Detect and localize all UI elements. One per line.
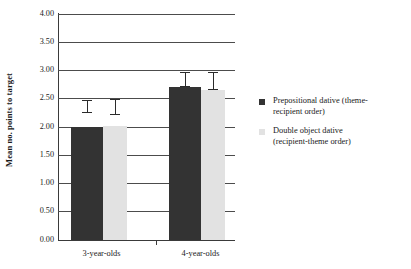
gridline-4-00	[58, 14, 235, 15]
legend-label-double-object-line1: Double object dative	[273, 126, 409, 137]
x-tick-mark-center	[156, 241, 157, 245]
y-tick-label-2-00: 2.00	[20, 123, 54, 131]
legend-label-prepositional-line1: Prepositional dative (theme-	[273, 96, 409, 107]
y-tick-label-3-50: 3.50	[20, 38, 54, 46]
y-axis-title-text: Mean no. points to target	[4, 73, 14, 167]
legend-entry-double-object-dative: Double object dative (recipient-theme or…	[259, 126, 409, 147]
legend-swatch-double-object-dative	[259, 129, 265, 135]
y-tick-label-3-00: 3.00	[20, 66, 54, 74]
error-bar-4-year-olds-double-object	[208, 72, 218, 90]
y-tick-label-2-50: 2.50	[20, 94, 54, 102]
y-tick-label-1-50: 1.50	[20, 151, 54, 159]
legend-label-double-object-line2: (recipient-theme order)	[273, 137, 409, 148]
gridline-3-00	[58, 70, 235, 71]
y-tick-label-0-50: 0.50	[20, 207, 54, 215]
legend-entry-prepositional-dative: Prepositional dative (theme- recipient o…	[259, 96, 409, 117]
legend-label-prepositional-line2: recipient order)	[273, 107, 409, 118]
plot-area	[58, 14, 235, 240]
bar-chart-figure: Mean no. points to target 4.00 3.50 3.00…	[0, 0, 411, 269]
error-bar-4-year-olds-prepositional	[180, 72, 190, 87]
y-tick-label-1-00: 1.00	[20, 179, 54, 187]
legend-swatch-prepositional-dative	[259, 99, 265, 105]
bar-4-year-olds-double-object	[201, 90, 225, 240]
y-tick-label-0-00: 0.00	[20, 236, 54, 244]
gridline-baseline-0-00	[58, 240, 235, 241]
gridline-3-50	[58, 42, 235, 43]
bar-4-year-olds-prepositional	[169, 87, 201, 240]
chart-legend: Prepositional dative (theme- recipient o…	[259, 96, 409, 156]
bar-3-year-olds-double-object	[103, 126, 127, 240]
x-tick-label-3-year-olds: 3-year-olds	[59, 249, 144, 258]
y-axis-tick-labels: 4.00 3.50 3.00 2.50 2.00 1.50 1.00 0.50 …	[14, 0, 54, 269]
error-bar-3-year-olds-double-object	[110, 99, 120, 115]
y-tick-label-4-00: 4.00	[20, 10, 54, 18]
error-bar-3-year-olds-prepositional	[82, 100, 92, 113]
bar-3-year-olds-prepositional	[71, 127, 103, 240]
x-tick-label-4-year-olds: 4-year-olds	[158, 249, 243, 258]
